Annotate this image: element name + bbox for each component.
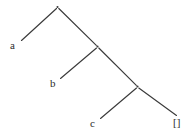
edge-node2-to-b xyxy=(61,48,97,79)
edge-node3-to-c xyxy=(101,88,137,119)
leaf-label-nil: [] xyxy=(173,117,180,128)
node-dot-third xyxy=(136,85,138,87)
edge-root-to-node2 xyxy=(59,9,97,46)
leaf-label-c: c xyxy=(90,118,95,129)
node-dot-root xyxy=(56,6,58,8)
edge-node3-to-nil xyxy=(139,88,177,116)
leaf-label-b: b xyxy=(50,78,56,89)
leaf-label-a: a xyxy=(10,40,15,51)
node-dot-second xyxy=(96,45,98,47)
tree-diagram-svg xyxy=(0,0,194,140)
tree-diagram-canvas: a b c [] xyxy=(0,0,194,140)
edge-root-to-a xyxy=(22,9,57,41)
edge-node2-to-node3 xyxy=(99,48,137,85)
